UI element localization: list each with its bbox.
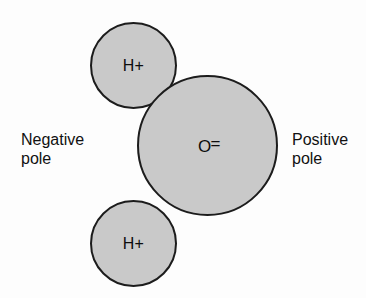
oxygen-atom-label: O=	[198, 138, 221, 155]
molecule-diagram: Negative pole H+ H+ O= Positive pole	[0, 0, 366, 298]
hydrogen-atom-bottom-label: H+	[123, 236, 144, 252]
hydrogen-atom-top-label: H+	[123, 58, 144, 74]
positive-pole-label: Positive pole	[292, 130, 348, 168]
oxygen-double-bond-symbol: =	[211, 134, 220, 153]
oxygen-element-symbol: O	[198, 137, 211, 156]
hydrogen-atom-bottom: H+	[90, 200, 177, 287]
oxygen-atom: O=	[137, 75, 278, 216]
negative-pole-label: Negative pole	[21, 130, 84, 168]
